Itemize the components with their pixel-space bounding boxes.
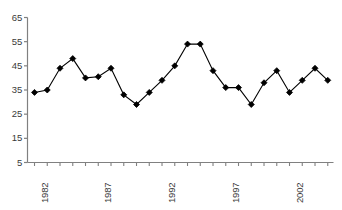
x-axis-tick-label: 1982 [39, 182, 50, 202]
data-point-marker [197, 41, 203, 47]
data-point-marker [108, 65, 114, 71]
y-axis-tick-label: 35 [2, 84, 22, 95]
x-axis-tick-label: 2002 [294, 182, 305, 202]
data-point-marker [83, 75, 89, 81]
y-axis-tick-label: 15 [2, 132, 22, 143]
chart-plot-area [0, 0, 342, 210]
x-axis-tick-label: 1987 [102, 182, 113, 202]
y-axis-tick-label: 45 [2, 60, 22, 71]
y-axis-tick-label: 65 [2, 12, 22, 23]
series-line [35, 44, 328, 104]
data-point-marker [95, 74, 101, 80]
line-chart: 515253545556519821987199219972002 [0, 0, 342, 210]
y-axis-tick-label: 5 [2, 157, 22, 168]
x-axis-tick-label: 1997 [230, 182, 241, 202]
data-point-marker [185, 41, 191, 47]
x-axis-tick-label: 1992 [166, 182, 177, 202]
y-axis-tick-label: 25 [2, 108, 22, 119]
data-point-marker [44, 87, 50, 93]
data-point-marker [32, 89, 38, 95]
y-axis-tick-label: 55 [2, 36, 22, 47]
